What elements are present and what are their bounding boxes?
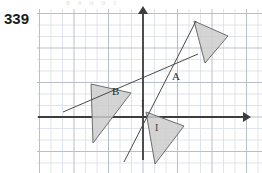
tick-label-left: I <box>141 98 144 109</box>
point-label-b: B <box>112 85 119 97</box>
figure-canvas: в а о о с 339 ABII <box>0 0 262 173</box>
y-axis-arrow-icon <box>138 6 148 14</box>
upper-right-triangle <box>194 21 228 63</box>
left-triangle <box>91 84 131 143</box>
lower-right-triangle <box>146 112 184 164</box>
coordinate-plot: ABII <box>0 0 262 173</box>
point-label-a: A <box>172 70 180 82</box>
tick-label-right: I <box>155 122 158 133</box>
grid-lines <box>28 2 262 173</box>
